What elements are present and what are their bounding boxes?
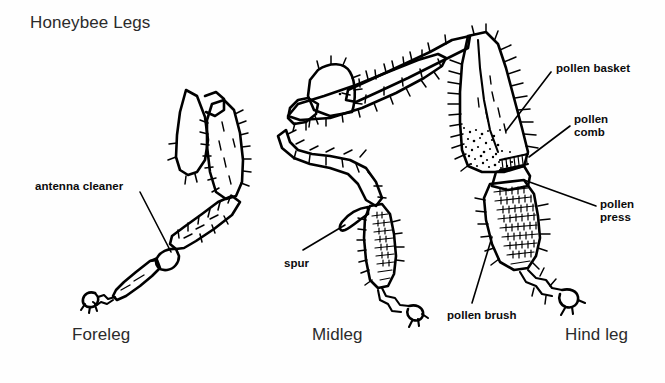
annotation-pollen-brush: pollen brush: [447, 309, 517, 322]
diagram-canvas: .o { fill:none; stroke:#000; stroke-widt…: [0, 0, 665, 383]
annotation-pollen-basket: pollen basket: [556, 62, 630, 75]
annotation-pollen-comb: pollen comb: [574, 113, 608, 139]
annotation-spur: spur: [284, 257, 309, 270]
annotation-antenna-cleaner: antenna cleaner: [35, 180, 123, 193]
annotation-pollen-press: pollen press: [600, 198, 634, 224]
page-title: Honeybee Legs: [30, 13, 150, 32]
label-hind-leg: Hind leg: [565, 325, 628, 344]
label-midleg: Midleg: [312, 325, 363, 344]
label-foreleg: Foreleg: [72, 325, 130, 344]
